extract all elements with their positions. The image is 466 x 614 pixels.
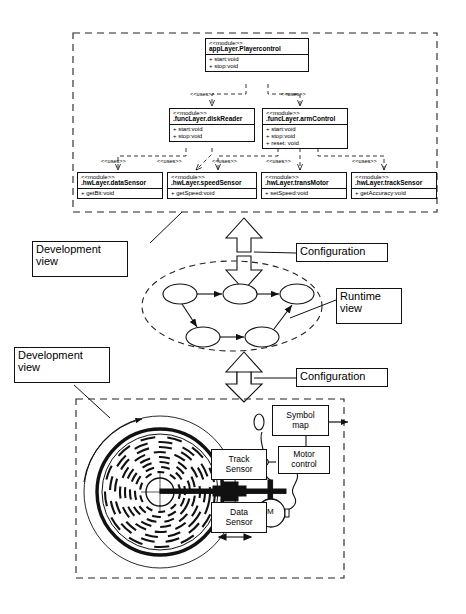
- module-box-playercontrol[interactable]: <<module>> appLayer.Playercontrol + star…: [205, 38, 309, 72]
- module-operation: + start:void: [173, 126, 251, 133]
- diagram-canvas: <<module>> appLayer.Playercontrol + star…: [0, 0, 466, 614]
- module-operation: + stop:void: [173, 133, 251, 140]
- module-header: <<module>> .funcLayer.diskReader: [170, 109, 254, 125]
- module-operations: + setSpeed:void: [262, 189, 346, 198]
- module-operation: + getAccuracy:void: [355, 190, 433, 197]
- module-header: <<module>> .hwLayer.dataSensor: [78, 173, 162, 189]
- runtime-node-1: [163, 284, 197, 304]
- module-header: <<module>> .funcLayer.armControl: [263, 109, 347, 125]
- runtime-node-2: [223, 284, 257, 304]
- module-header: <<module>> .hwLayer.transMotor: [262, 173, 346, 189]
- module-box-tracksensor[interactable]: <<module>> .hwLayer.trackSensor + getAcc…: [351, 172, 437, 199]
- configuration-arrow-top: [226, 218, 262, 290]
- uses-label-playercontrol-diskreader: <<uses>>: [190, 91, 215, 97]
- module-header: <<module>> .hwLayer.speedSensor: [168, 173, 256, 189]
- module-name: .hwLayer.speedSensor: [171, 180, 253, 187]
- module-operation: + stop:void: [209, 63, 305, 70]
- component-motor-control[interactable]: Motor control: [278, 446, 330, 474]
- module-operation: + stop:void: [266, 133, 344, 140]
- caption-configuration-top[interactable]: Configuration: [296, 243, 388, 262]
- module-operations: + getAccuracy:void: [352, 189, 436, 198]
- module-box-diskreader[interactable]: <<module>> .funcLayer.diskReader + start…: [169, 108, 255, 142]
- module-header: <<module>> appLayer.Playercontrol: [206, 39, 308, 55]
- runtime-node-4: [186, 327, 220, 347]
- component-motor-label: M: [267, 507, 274, 516]
- runtime-node-3: [280, 284, 314, 304]
- module-name: .hwLayer.transMotor: [265, 180, 343, 187]
- component-symbol-map[interactable]: Symbol map: [272, 405, 329, 436]
- module-name: .funcLayer.armControl: [266, 116, 344, 123]
- uses-label-armcontrol-transmotor: <<uses>>: [266, 158, 291, 164]
- head-travel-arrow: [219, 534, 251, 540]
- module-name: appLayer.Playercontrol: [209, 46, 305, 53]
- caption-configuration-bottom[interactable]: Configuration: [296, 368, 388, 387]
- module-box-datasensor[interactable]: <<module>> .hwLayer.dataSensor + getBit:…: [77, 172, 163, 199]
- module-operation: + start:void: [209, 56, 305, 63]
- uses-label-diskreader-datasensor: <<uses>>: [101, 158, 126, 164]
- module-operations: + start:void + stop:void: [170, 125, 254, 141]
- leader-dev-top: [150, 212, 182, 243]
- module-operation: + setSpeed:void: [265, 190, 343, 197]
- module-operation: + reset: void: [266, 140, 344, 147]
- leader-dev-bottom: [74, 385, 110, 418]
- component-track-sensor[interactable]: Track Sensor: [211, 449, 267, 480]
- module-operation: + start:void: [266, 126, 344, 133]
- uses-label-diskreader-speedsensor: <<uses>>: [157, 158, 182, 164]
- uses-label-playercontrol-armcontrol: <<uses>>: [281, 91, 306, 97]
- caption-runtime-view[interactable]: Runtime view: [336, 288, 402, 324]
- uses-label-armcontrol-speedsensor: <<uses>>: [212, 158, 237, 164]
- module-operation: + getBit:void: [81, 190, 159, 197]
- module-name: .hwLayer.trackSensor: [355, 180, 433, 187]
- module-box-armcontrol[interactable]: <<module>> .funcLayer.armControl + start…: [262, 108, 348, 149]
- module-name: .funcLayer.diskReader: [173, 116, 251, 123]
- module-operations: + getSpeed:void: [168, 189, 256, 198]
- module-box-transmotor[interactable]: <<module>> .hwLayer.transMotor + setSpee…: [261, 172, 347, 199]
- module-box-speedsensor[interactable]: <<module>> .hwLayer.speedSensor + getSpe…: [167, 172, 257, 199]
- module-header: <<module>> .hwLayer.trackSensor: [352, 173, 436, 189]
- uses-label-armcontrol-tracksensor: <<uses>>: [352, 158, 377, 164]
- module-operations: + getBit:void: [78, 189, 162, 198]
- module-operations: + start:void + stop:void + reset: void: [263, 125, 347, 148]
- caption-development-view-bottom[interactable]: Development view: [14, 347, 110, 383]
- module-name: .hwLayer.dataSensor: [81, 180, 159, 187]
- module-operations: + start:void + stop:void: [206, 55, 308, 71]
- runtime-node-5: [245, 327, 279, 347]
- module-operation: + getSpeed:void: [171, 190, 253, 197]
- caption-development-view-top[interactable]: Development view: [32, 241, 128, 277]
- configuration-arrow-bottom: [226, 352, 262, 402]
- leader-config-top: [254, 252, 296, 253]
- component-data-sensor[interactable]: Data Sensor: [211, 502, 267, 533]
